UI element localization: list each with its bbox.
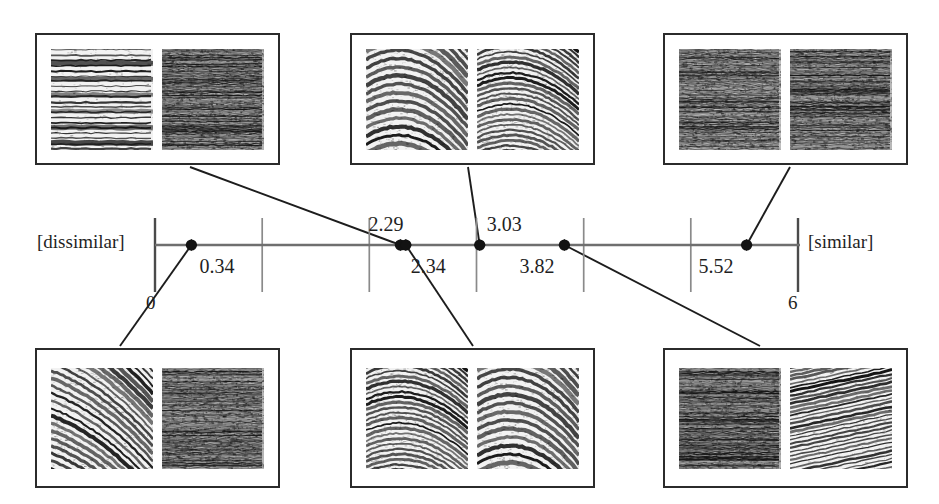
- axis-min-tick-label: 0: [146, 292, 156, 314]
- connector-line-m6: [747, 167, 790, 245]
- marker-value-label-0-34: 0.34: [199, 255, 234, 278]
- texture-thumbnail-left: [51, 49, 153, 150]
- pair-box-top-left: [35, 33, 280, 165]
- axis-markers: [185, 239, 752, 251]
- marker-value-label-3-03: 3.03: [487, 213, 522, 236]
- axis-anchor-left-label: [dissimilar]: [37, 231, 125, 253]
- axis-marker-5.52: [741, 239, 753, 251]
- axis-marker-2.29: [394, 239, 406, 251]
- axis-marker-3.03: [474, 239, 486, 251]
- texture-thumbnail-right: [477, 49, 579, 150]
- texture-thumbnail-left: [366, 368, 468, 469]
- texture-thumbnail-left: [366, 49, 468, 150]
- pair-box-top-middle: [350, 33, 595, 165]
- marker-value-label-2-29: 2.29: [368, 213, 403, 236]
- texture-thumbnail-right: [790, 49, 892, 150]
- axis-max-tick-label: 6: [788, 292, 798, 314]
- pair-box-bottom-left: [35, 348, 280, 488]
- texture-thumbnail-left: [679, 49, 781, 150]
- texture-thumbnail-right: [162, 49, 264, 150]
- axis-marker-2.34: [400, 239, 412, 251]
- marker-value-label-3-82: 3.82: [519, 255, 554, 278]
- axis-anchor-right-label: [similar]: [808, 231, 873, 253]
- texture-thumbnail-left: [51, 368, 153, 469]
- pair-box-top-right: [663, 33, 908, 165]
- pair-box-bottom-middle: [350, 348, 595, 488]
- connector-line-m1: [120, 245, 191, 346]
- texture-thumbnail-right: [790, 368, 892, 469]
- texture-thumbnail-right: [162, 368, 264, 469]
- axis-marker-0.34: [185, 239, 197, 251]
- axis-marker-3.82: [558, 239, 570, 251]
- connector-line-m4: [468, 167, 480, 245]
- texture-similarity-figure: [dissimilar] [similar] 0 6 0.34 2.29 2.3…: [0, 0, 939, 504]
- texture-thumbnail-right: [477, 368, 579, 469]
- pair-box-bottom-right: [663, 348, 908, 488]
- marker-value-label-5-52: 5.52: [699, 255, 734, 278]
- marker-value-label-2-34: 2.34: [411, 255, 446, 278]
- texture-thumbnail-left: [679, 368, 781, 469]
